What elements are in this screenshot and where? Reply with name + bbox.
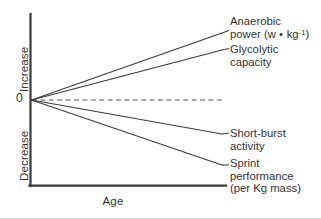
series-label-sprint-performance-line3: (per Kg mass): [230, 182, 301, 195]
x-axis-label: Age: [0, 195, 226, 207]
series-line-short-burst-activity: [32, 100, 223, 134]
series-label-anaerobic-power-line1: Anaerobic: [230, 15, 309, 28]
anaerobic-power-unit-suffix: ): [305, 28, 309, 40]
series-line-sprint-performance: [32, 100, 223, 165]
series-label-short-burst-activity-line2: activity: [230, 140, 286, 153]
series-label-glycolytic-capacity-line2: capacity: [230, 56, 278, 69]
series-label-sprint-performance: Sprint performance (per Kg mass): [230, 157, 301, 195]
y-axis-label-decrease: Decrease: [17, 131, 30, 181]
series-label-sprint-performance-line2: performance: [230, 170, 301, 183]
series-label-glycolytic-capacity-line1: Glycolytic: [230, 43, 278, 56]
series-line-anaerobic-power: [32, 33, 223, 100]
y-axis-label-increase: Increase: [17, 47, 30, 92]
series-label-glycolytic-capacity: Glycolytic capacity: [230, 43, 278, 68]
leader-line-anaerobic-power: [222, 31, 229, 34]
anaerobic-power-unit-prefix: power (w: [230, 28, 279, 40]
series-line-glycolytic-capacity: [32, 50, 223, 100]
series-label-short-burst-activity: Short-burst activity: [230, 127, 286, 152]
anaerobic-power-unit-mid: kg: [284, 28, 299, 40]
leader-line-short-burst-activity: [222, 133, 229, 134]
series-label-short-burst-activity-line1: Short-burst: [230, 127, 286, 140]
leader-line-glycolytic-capacity: [222, 49, 229, 51]
series-label-anaerobic-power-line2: power (w • kg-1): [230, 28, 309, 41]
series-label-sprint-performance-line1: Sprint: [230, 157, 301, 170]
series-label-anaerobic-power: Anaerobic power (w • kg-1): [230, 15, 309, 40]
figure-container: Increase Decrease 0 Age Anaerobic power …: [0, 0, 321, 219]
y-axis-zero-tick-label: 0: [16, 92, 23, 104]
